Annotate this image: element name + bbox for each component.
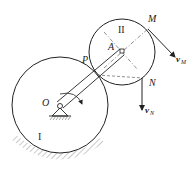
dashed-line-PN	[97, 75, 143, 78]
label-vM: v M	[176, 54, 187, 65]
label-M: M	[147, 13, 157, 24]
svg-text:N: N	[149, 110, 155, 116]
label-vN: v N	[145, 105, 155, 116]
velocity-vector-vM	[148, 29, 175, 57]
label-P: P	[81, 54, 88, 65]
mechanism-diagram: O A P M N I II v M v N	[0, 0, 194, 176]
pivot-support-O	[49, 104, 71, 121]
svg-text:M: M	[180, 59, 187, 65]
label-N: N	[148, 77, 157, 88]
label-O: O	[42, 97, 49, 108]
label-A: A	[107, 41, 115, 52]
pin-A	[120, 49, 124, 53]
label-gear-II: II	[118, 24, 125, 35]
label-gear-I: I	[38, 131, 41, 142]
